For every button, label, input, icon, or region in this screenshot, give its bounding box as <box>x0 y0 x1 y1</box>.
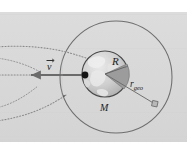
geo-radius-subscript: geo <box>134 84 144 91</box>
diagram-canvas: R M rgeo v <box>0 0 187 142</box>
earth-radius-label: R <box>111 55 119 67</box>
velocity-label: v <box>47 61 52 72</box>
orbit-focus-dot <box>82 72 89 79</box>
earth-mass-label: M <box>99 102 109 113</box>
top-white-band <box>0 0 187 12</box>
satellite-marker <box>152 100 159 107</box>
physics-diagram-figure: R M rgeo v <box>0 0 187 142</box>
